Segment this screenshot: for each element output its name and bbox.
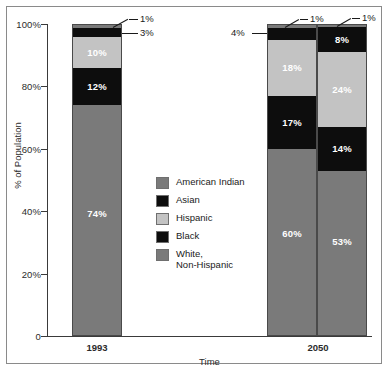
y-tick-label-20: 20%: [22, 269, 41, 280]
bar-1993-segment-asian[interactable]: [72, 28, 122, 37]
bar-2050-b-label-asian: 8%: [335, 35, 349, 45]
callout-leader-1993-asian: [122, 33, 138, 34]
chart-figure: 100% 80% 60% 40% 20% 0 % of Population 1…: [0, 0, 389, 376]
bar-2050-a-segment-white-non-hispanic[interactable]: 60%: [267, 149, 317, 336]
y-tick-label-0: 0: [36, 331, 41, 342]
legend-label-hispanic: Hispanic: [176, 212, 212, 223]
callout-leader-h-2050-b-american-indian: [352, 18, 360, 19]
bar-1993-label-black: 12%: [87, 82, 107, 92]
x-axis-title: Time: [47, 356, 372, 367]
y-tick-label-40: 40%: [22, 206, 41, 217]
bar-1993[interactable]: 10% 12% 74%: [72, 24, 122, 336]
y-tick-80: [41, 86, 47, 87]
bar-1993-segment-hispanic[interactable]: 10%: [72, 37, 122, 68]
legend-swatch-black: [156, 231, 169, 243]
callout-label-2050-a-american-indian: 1%: [310, 13, 324, 24]
callout-leader-h-2050-a-american-indian: [300, 19, 308, 20]
bar-2050-b[interactable]: 8% 24% 14% 53%: [317, 24, 367, 336]
legend-item-asian[interactable]: Asian: [156, 194, 274, 207]
bar-1993-segment-black[interactable]: 12%: [72, 68, 122, 105]
bar-2050-b-segment-hispanic[interactable]: 24%: [317, 52, 367, 127]
legend-item-american-indian[interactable]: American Indian: [156, 176, 274, 189]
y-axis-line: [47, 24, 48, 337]
bar-1993-segment-white-non-hispanic[interactable]: 74%: [72, 105, 122, 336]
y-tick-0: [41, 336, 47, 337]
bar-2050-b-segment-asian[interactable]: 8%: [317, 27, 367, 52]
y-tick-label-60: 60%: [22, 144, 41, 155]
legend-swatch-asian: [156, 195, 169, 207]
legend-swatch-american-indian: [156, 177, 169, 189]
callout-label-1993-american-indian: 1%: [140, 13, 154, 24]
bar-2050-a-label-black: 17%: [282, 118, 302, 128]
bar-1993-label-white-non-hispanic: 74%: [87, 209, 107, 219]
legend-label-american-indian: American Indian: [176, 176, 245, 187]
callout-leader-2050-a-asian: [252, 33, 267, 34]
bar-2050-a[interactable]: 18% 17% 60%: [267, 24, 317, 336]
x-tick-label-2050: 2050: [283, 342, 353, 353]
bar-2050-a-label-white-non-hispanic: 60%: [282, 229, 302, 239]
bar-1993-label-hispanic: 10%: [87, 48, 107, 58]
y-tick-40: [41, 211, 47, 212]
bar-2050-a-segment-hispanic[interactable]: 18%: [267, 40, 317, 96]
bar-2050-a-label-hispanic: 18%: [282, 63, 302, 73]
y-tick-20: [41, 274, 47, 275]
legend-swatch-white-non-hispanic: [156, 249, 169, 261]
y-tick-60: [41, 149, 47, 150]
legend-label-asian: Asian: [176, 194, 200, 205]
bar-2050-b-label-white-non-hispanic: 53%: [332, 237, 352, 247]
callout-label-1993-asian: 3%: [140, 27, 154, 38]
legend-item-black[interactable]: Black: [156, 230, 274, 243]
bar-2050-b-segment-black[interactable]: 14%: [317, 127, 367, 171]
bar-2050-a-segment-asian[interactable]: [267, 28, 317, 40]
callout-leader-h-1993-american-indian: [129, 19, 138, 20]
legend-label-white-non-hispanic: White, Non-Hispanic: [176, 248, 233, 270]
legend-item-hispanic[interactable]: Hispanic: [156, 212, 274, 225]
legend-label-black: Black: [176, 230, 199, 241]
bar-2050-b-label-black: 14%: [332, 144, 352, 154]
bar-2050-a-segment-black[interactable]: 17%: [267, 96, 317, 149]
y-axis-title: % of Population: [12, 101, 23, 211]
y-tick-label-100: 100%: [16, 19, 41, 30]
legend-item-white-non-hispanic[interactable]: White, Non-Hispanic: [156, 248, 274, 270]
bar-2050-b-segment-white-non-hispanic[interactable]: 53%: [317, 171, 367, 336]
x-axis-line: [47, 336, 372, 337]
callout-label-2050-b-american-indian: 1%: [362, 12, 376, 23]
callout-label-2050-a-asian: 4%: [231, 27, 245, 38]
legend: American Indian Asian Hispanic Black Whi…: [156, 176, 274, 275]
y-tick-100: [41, 24, 47, 25]
x-tick-label-1993: 1993: [62, 342, 132, 353]
legend-swatch-hispanic: [156, 213, 169, 225]
bar-2050-b-label-hispanic: 24%: [332, 85, 352, 95]
y-tick-label-80: 80%: [22, 81, 41, 92]
